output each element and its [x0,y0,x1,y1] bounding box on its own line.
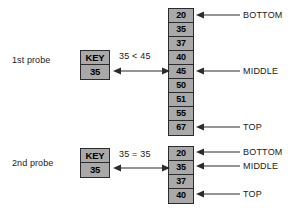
probe-2-key-value: 35 [81,163,109,177]
probe-1-key-value: 35 [81,65,109,79]
probe-2-pointer-bottom-label: BOTTOM [243,147,283,157]
diagram-canvas: 1st probe KEY 35 35 < 45 20 35 37 40 45 … [0,0,305,208]
array-cell: 35 [169,161,193,175]
probe-1-label: 1st probe [12,55,50,65]
probe-2-middle-arrow-icon [196,163,240,170]
probe-2-bottom-arrow-icon [196,149,240,156]
probe-1-top-arrow-icon [196,124,240,131]
probe-2-top-arrow-icon [196,191,240,198]
probe-2-pointer-middle-label: MIDDLE [243,161,278,171]
probe-2-key-header: KEY [81,149,109,163]
probe-1-bottom-arrow-icon [196,12,240,19]
probe-1-pointer-top-label: TOP [243,122,262,132]
array-cell: 37 [169,37,193,51]
array-cell: 40 [169,51,193,65]
array-cell: 37 [169,175,193,189]
probe-2-comparison: 35 = 35 [119,149,151,159]
probe-1-key-header: KEY [81,51,109,65]
probe-1-array: 20 35 37 40 45 50 51 55 67 [168,8,194,136]
probe-2-key-box: KEY 35 [80,148,110,178]
array-cell: 55 [169,107,193,121]
probe-1-pointer-bottom-label: BOTTOM [243,10,283,20]
array-cell: 51 [169,93,193,107]
array-cell: 20 [169,9,193,23]
probe-1-key-box: KEY 35 [80,50,110,80]
probe-2-comparison-arrow-icon [113,165,170,172]
array-cell: 45 [169,65,193,79]
array-cell: 20 [169,147,193,161]
probe-1-middle-arrow-icon [196,68,240,75]
probe-2-array: 20 35 37 40 [168,146,194,204]
probe-2-label: 2nd probe [12,158,53,168]
probe-1-comparison-arrow-icon [113,68,170,75]
array-cell: 50 [169,79,193,93]
array-cell: 35 [169,23,193,37]
probe-1-pointer-middle-label: MIDDLE [243,66,278,76]
array-cell: 67 [169,121,193,135]
probe-2-pointer-top-label: TOP [243,189,262,199]
arrow-overlay [0,0,305,208]
array-cell: 40 [169,189,193,203]
probe-1-comparison: 35 < 45 [119,51,151,61]
